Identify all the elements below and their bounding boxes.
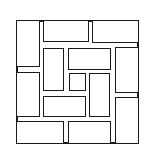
- tile-inner-left-vertical: [43, 48, 64, 91]
- tile-left-middle-vertical: [16, 72, 40, 117]
- tile-center-square: [69, 73, 86, 91]
- tile-right-lower-vertical: [115, 97, 139, 144]
- tile-top-right-horizontal: [92, 20, 139, 43]
- tile-inner-top-horizontal: [68, 48, 111, 70]
- tile-top-left-vertical: [16, 20, 40, 67]
- tile-inner-bottom-horizontal: [43, 96, 86, 117]
- tile-right-upper-vertical: [115, 47, 139, 93]
- tile-top-middle-horizontal: [43, 20, 89, 42]
- tile-bottom-left-horizontal: [16, 121, 64, 144]
- tile-bottom-middle-horizontal: [68, 121, 111, 144]
- tile-inner-right-vertical: [89, 73, 110, 117]
- parquet-tiling-diagram: [0, 0, 153, 158]
